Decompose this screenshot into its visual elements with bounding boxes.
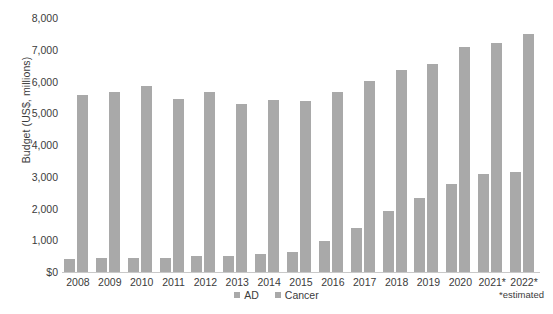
bar-group (126, 18, 158, 272)
x-axis-tick-label: 2022* (504, 276, 544, 288)
bar-cancer (491, 43, 502, 272)
bar-group (253, 18, 285, 272)
bar-group (381, 18, 413, 272)
plot-area (62, 18, 540, 272)
bar-cancer (268, 100, 279, 272)
bar-cancer (459, 47, 470, 272)
bar-group (349, 18, 381, 272)
bar-cancer (77, 95, 88, 272)
bar-ad (383, 211, 394, 272)
chart-figure: Budget (US$, millions) 8,0007,0006,0005,… (0, 0, 553, 314)
bar-cancer (332, 92, 343, 272)
bar-cancer (141, 86, 152, 272)
bar-cancer (427, 64, 438, 272)
bar-ad (96, 258, 107, 272)
bar-ad (478, 174, 489, 272)
bar-ad (414, 198, 425, 272)
bar-ad (287, 252, 298, 272)
bar-ad (191, 256, 202, 272)
bar-group (476, 18, 508, 272)
legend-item[interactable]: AD (234, 289, 259, 301)
x-axis-line (62, 272, 540, 273)
bar-group (221, 18, 253, 272)
legend-item[interactable]: Cancer (275, 289, 319, 301)
chart-legend: ADCancer (0, 289, 553, 301)
bar-cancer (173, 99, 184, 272)
bar-cancer (364, 81, 375, 272)
bar-group (94, 18, 126, 272)
bar-group (158, 18, 190, 272)
legend-swatch-icon (234, 292, 240, 298)
y-axis-tick-label: 6,000 (10, 76, 58, 88)
bar-ad (510, 172, 521, 272)
legend-label: Cancer (285, 289, 319, 301)
y-axis-tick-label: 1,000 (10, 234, 58, 246)
y-axis-tick-label: 4,000 (10, 139, 58, 151)
y-axis-tick-labels: 8,0007,0006,0005,0004,0003,0002,0001,000… (0, 0, 58, 314)
bar-group (508, 18, 540, 272)
y-axis-tick-label: 3,000 (10, 171, 58, 183)
bar-ad (255, 254, 266, 272)
bar-ad (128, 258, 139, 272)
bar-ad (223, 256, 234, 272)
bar-group (444, 18, 476, 272)
bar-cancer (204, 92, 215, 272)
bar-group (285, 18, 317, 272)
legend-swatch-icon (275, 292, 281, 298)
bar-cancer (396, 70, 407, 272)
bar-ad (319, 241, 330, 272)
bar-cancer (236, 104, 247, 272)
y-axis-tick-label: 2,000 (10, 203, 58, 215)
y-axis-tick-label: 5,000 (10, 107, 58, 119)
bar-cancer (523, 34, 534, 272)
footnote: *estimated (499, 289, 544, 300)
bar-ad (160, 258, 171, 272)
y-axis-tick-label: $0 (10, 266, 58, 278)
bar-group (62, 18, 94, 272)
y-axis-tick-label: 7,000 (10, 44, 58, 56)
bar-group (189, 18, 221, 272)
bar-ad (446, 184, 457, 272)
bar-ad (64, 259, 75, 272)
legend-label: AD (244, 289, 259, 301)
y-axis-tick-label: 8,000 (10, 12, 58, 24)
bar-group (412, 18, 444, 272)
bar-cancer (300, 101, 311, 272)
bar-series-container (62, 18, 540, 272)
bar-group (317, 18, 349, 272)
bar-ad (351, 228, 362, 272)
bar-cancer (109, 92, 120, 272)
